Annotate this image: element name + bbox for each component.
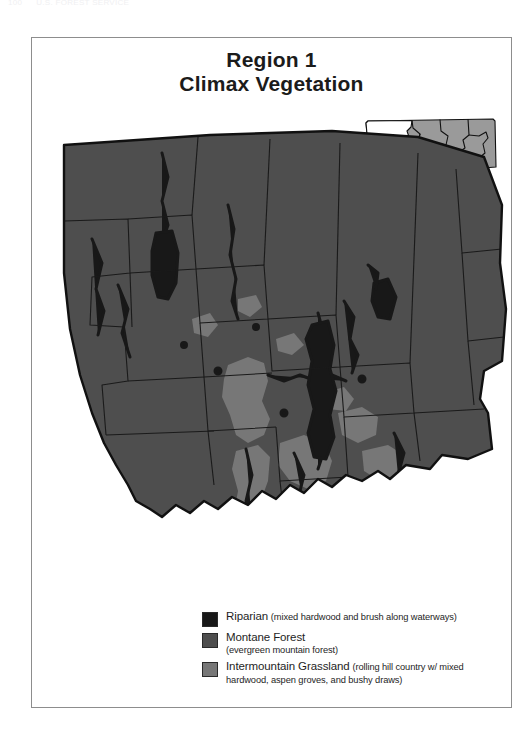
legend-item-riparian: Riparian (mixed hardwood and brush along… — [202, 611, 492, 627]
legend-label-riparian: Riparian — [226, 610, 268, 622]
legend-swatch-intermountain-grassland — [202, 662, 218, 677]
legend-swatch-montane-forest — [202, 633, 218, 648]
running-head: 100 U.S. FOREST SERVICE — [8, 0, 308, 10]
legend-label-montane-forest: Montane Forest — [226, 631, 305, 643]
page-title-line-2: Climax Vegetation — [32, 72, 511, 96]
legend-label-intermountain-grassland: Intermountain Grassland — [226, 660, 350, 672]
page-title-line-1: Region 1 — [32, 48, 511, 72]
map-base-montane-forest — [32, 113, 513, 588]
map-legend: Riparian (mixed hardwood and brush along… — [202, 611, 492, 691]
running-head-page-number: 100 — [8, 0, 22, 7]
legend-item-intermountain-grassland: Intermountain Grassland (rolling hill co… — [202, 661, 492, 686]
figure-frame: Region 1 Climax Vegetation — [31, 37, 512, 708]
running-head-title: U.S. FOREST SERVICE — [36, 0, 129, 7]
legend-desc-riparian: (mixed hardwood and brush along waterway… — [271, 612, 457, 622]
region-1-climax-vegetation-map — [32, 113, 513, 588]
legend-swatch-riparian — [202, 612, 218, 627]
figure-title: Region 1 Climax Vegetation — [32, 48, 511, 96]
page-canvas: 100 U.S. FOREST SERVICE Region 1 Climax … — [0, 0, 532, 741]
legend-item-montane-forest: Montane Forest (evergreen mountain fores… — [202, 632, 492, 656]
legend-desc-montane-forest: (evergreen mountain forest) — [226, 645, 338, 655]
